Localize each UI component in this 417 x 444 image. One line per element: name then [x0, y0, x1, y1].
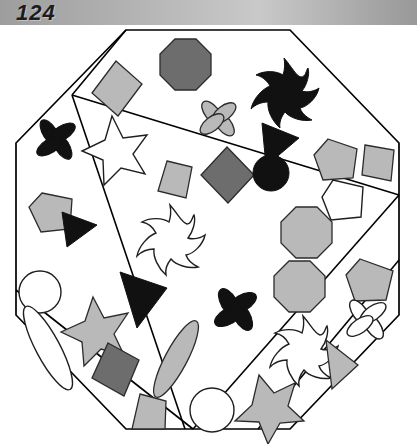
shape-circle-white-bottom: [190, 388, 234, 432]
shape-octagon-light-gray-lower: [274, 261, 325, 312]
page-header-bar: 124: [0, 0, 417, 25]
octagon-puzzle-figure: [0, 25, 417, 444]
shape-circle-black-center: [253, 155, 289, 191]
shape-octagon-dark-gray: [160, 39, 211, 90]
shape-octagon-light-gray-center-right: [281, 207, 332, 258]
figure-area: [0, 25, 417, 444]
page-number: 124: [16, 1, 56, 25]
shape-diamond-light-gray-right: [362, 145, 394, 181]
